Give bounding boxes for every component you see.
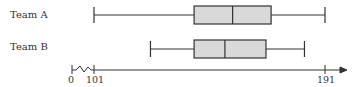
axis-break-zigzag-icon (76, 66, 91, 72)
tick-label-191: 191 (317, 74, 335, 85)
x-axis (72, 65, 347, 74)
team-a-label: Team A (10, 9, 48, 20)
box-plot-chart: Team A Team B 0 101 191 (0, 0, 353, 87)
axis-arrow-icon (340, 67, 347, 73)
team-b-label: Team B (10, 41, 48, 52)
team-b-iqr-box (194, 40, 266, 58)
team-a-boxplot (94, 6, 325, 24)
tick-label-0: 0 (68, 74, 74, 85)
tick-label-101: 101 (86, 74, 104, 85)
team-b-boxplot (150, 40, 304, 58)
